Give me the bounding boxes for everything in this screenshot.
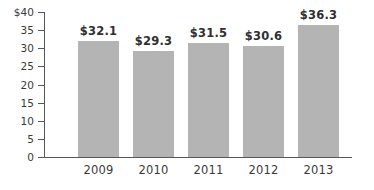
bar-value-label-2012: $30.6 [224,29,304,43]
bar-chart: $40 35 30 25 20 15 10 5 0 $32.1 $29.3 $3… [0,0,374,190]
y-axis-tick [38,48,44,49]
y-axis-tick [38,66,44,67]
y-axis-tick-label: 20 [0,79,34,91]
y-axis-tick [38,139,44,140]
bar-2010[interactable] [133,51,174,157]
y-axis-tick-label: 30 [0,42,34,54]
y-axis-tick [38,121,44,122]
y-axis-tick [38,30,44,31]
y-axis-tick-label: 10 [0,115,34,127]
y-axis-tick [38,157,44,158]
bar-2013[interactable] [298,25,339,157]
y-axis-tick-label: 35 [0,24,34,36]
y-axis-tick-label: 5 [0,133,34,145]
y-axis-tick-label: 0 [0,151,34,163]
bar-value-label-2013: $36.3 [279,8,359,22]
bar-2011[interactable] [188,43,229,157]
y-axis-tick-label: 15 [0,97,34,109]
bar-2012[interactable] [243,46,284,157]
y-axis-tick [38,85,44,86]
bar-2009[interactable] [78,41,119,157]
y-axis-tick [38,12,44,13]
y-axis-line [44,12,45,158]
y-axis-tick-label: 25 [0,60,34,72]
x-axis-label-2013: 2013 [279,163,359,177]
x-axis-line [44,157,352,158]
y-axis-tick [38,103,44,104]
y-axis-tick-label: $40 [0,6,34,18]
